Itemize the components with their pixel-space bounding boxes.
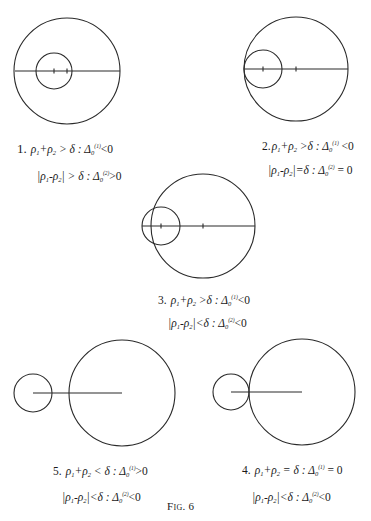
caption-4-line-1: 4.ρ1+ρ2 = δ : Δ0(1) = 0 — [242, 460, 343, 481]
figure-label: Fig. 6 — [167, 500, 194, 512]
diagram-3 — [142, 174, 255, 278]
caption-number: 3. — [158, 294, 167, 306]
diagram-5 — [14, 340, 175, 446]
caption-2-line-1: 2.ρ1+ρ2 >δ : Δ0(1) <0 — [262, 136, 354, 157]
caption-2-line-2: |ρ1-ρ2|=δ : Δ0(2) = 0 — [268, 160, 354, 181]
caption-3-line-2: |ρ1-ρ2|<δ : Δ0(2)<0 — [168, 313, 250, 334]
diagram-1 — [14, 18, 120, 124]
caption-1-line-1: 1.ρ1+ρ2 > δ : Δ0(1)<0 — [17, 139, 122, 160]
caption-5-line-1: 5.ρ1+ρ2 < δ : Δ0(1)>0 — [53, 461, 148, 482]
caption-5: 5.ρ1+ρ2 < δ : Δ0(1)>0 |ρ1-ρ2|<δ : Δ0(2)<… — [53, 461, 148, 508]
diagram-2 — [244, 17, 348, 121]
caption-1-line-2: |ρ1-ρ2| > δ : Δ0(2)>0 — [37, 166, 122, 187]
caption-3: 3.ρ1+ρ2 >δ : Δ0(1)<0 |ρ1-ρ2|<δ : Δ0(2)<0 — [158, 290, 250, 334]
figure-6-diagrams — [0, 0, 371, 521]
caption-number: 1. — [17, 141, 27, 156]
caption-5-line-2: |ρ1-ρ2|<δ : Δ0(2)<0 — [62, 487, 148, 508]
caption-number: 2. — [262, 140, 271, 152]
caption-4-line-2: |ρ1-ρ2|<δ : Δ0(2)<0 — [252, 487, 343, 508]
caption-2: 2.ρ1+ρ2 >δ : Δ0(1) <0 |ρ1-ρ2|=δ : Δ0(2) … — [262, 136, 354, 181]
caption-4: 4.ρ1+ρ2 = δ : Δ0(1) = 0 |ρ1-ρ2|<δ : Δ0(2… — [242, 460, 343, 508]
caption-number: 4. — [242, 464, 251, 476]
caption-number: 5. — [53, 465, 62, 477]
diagram-4 — [213, 339, 355, 445]
caption-3-line-1: 3.ρ1+ρ2 >δ : Δ0(1)<0 — [158, 290, 250, 311]
caption-1: 1.ρ1+ρ2 > δ : Δ0(1)<0 |ρ1-ρ2| > δ : Δ0(2… — [17, 139, 122, 187]
